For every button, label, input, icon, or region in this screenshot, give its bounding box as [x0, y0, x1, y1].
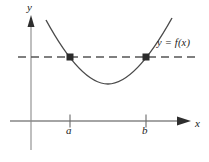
intersection-point-b [143, 54, 150, 61]
function-curve [46, 18, 172, 84]
graph-canvas [0, 0, 209, 162]
x-axis-label: x [195, 118, 200, 129]
function-curve-label: y = f(x) [157, 38, 190, 49]
graph-figure: y x a b y = f(x) [0, 0, 209, 162]
y-axis-label: y [27, 2, 32, 13]
tick-label-b: b [142, 125, 148, 136]
intersection-point-a [67, 54, 74, 61]
tick-label-a: a [66, 125, 72, 136]
x-axis-arrowhead [177, 117, 191, 126]
y-axis-arrowhead [28, 15, 35, 27]
